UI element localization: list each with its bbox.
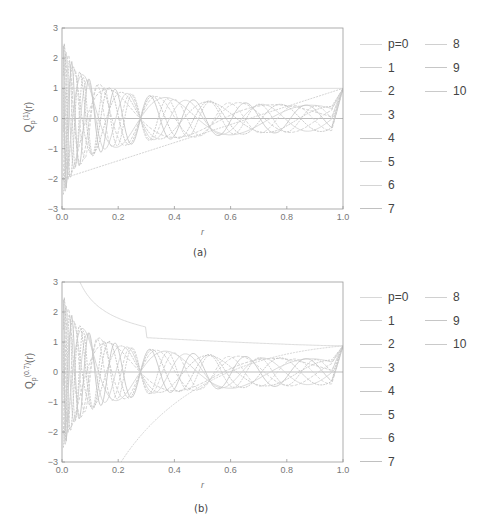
series-group (63, 262, 343, 492)
legend-line-swatch (360, 114, 382, 115)
legend-line-swatch (360, 67, 382, 68)
legend-label: 6 (388, 430, 395, 446)
legend-label: 9 (453, 60, 460, 76)
series-line-p7 (63, 44, 343, 177)
legend-label: 5 (388, 407, 395, 423)
legend-label: 4 (388, 130, 395, 146)
legend-item-p6: 6 (360, 430, 395, 446)
x-tick-label: 0.0 (56, 465, 69, 475)
legend-item-p9: 9 (425, 313, 460, 329)
legend-label: 5 (388, 154, 395, 170)
legend-item-p9: 9 (425, 60, 460, 76)
legend-line-swatch (425, 91, 447, 92)
legend-item-p7: 7 (360, 201, 395, 217)
legend-label: p=0 (388, 36, 408, 52)
series-line-p6 (63, 306, 343, 422)
legend-label: 2 (388, 83, 395, 99)
x-tick-label: 0.8 (281, 465, 294, 475)
y-tick-label: 3 (53, 23, 58, 33)
x-tick-label: 0.2 (112, 212, 125, 222)
legend-line-swatch (360, 438, 382, 439)
x-tick-label: 1.0 (337, 212, 350, 222)
series-line-p1 (63, 346, 343, 492)
legend-label: 1 (388, 313, 395, 329)
legend-line-swatch (360, 185, 382, 186)
caption-a: (a) (193, 247, 207, 258)
legend-item-p8: 8 (425, 36, 460, 52)
legend-item-p7: 7 (360, 454, 395, 470)
series-line-p4 (63, 67, 343, 195)
y-tick-label: −1 (48, 397, 58, 407)
legend-label: 9 (453, 313, 460, 329)
legend-line-swatch (360, 44, 382, 45)
y-tick-label: −2 (48, 174, 58, 184)
legend-item-p0: p=0 (360, 36, 408, 52)
legend-line-swatch (425, 320, 447, 321)
series-line-p2 (63, 88, 343, 175)
legend-item-p1: 1 (360, 313, 395, 329)
legend-item-p2: 2 (360, 83, 395, 99)
legend-item-p6: 6 (360, 177, 395, 193)
y-tick-label: 0 (53, 114, 58, 124)
legend-label: 4 (388, 383, 395, 399)
legend-item-p1: 1 (360, 60, 395, 76)
x-tick-label: 0.4 (168, 465, 181, 475)
legend-line-swatch (360, 391, 382, 392)
legend-item-p3: 3 (360, 360, 395, 376)
legend-line-swatch (360, 297, 382, 298)
caption-b: (b) (194, 503, 208, 514)
legend-line-swatch (425, 44, 447, 45)
legend-item-p0: p=0 (360, 289, 408, 305)
legend-line-swatch (360, 367, 382, 368)
legend-line-swatch (360, 414, 382, 415)
legend-label: p=0 (388, 289, 408, 305)
legend-item-p8: 8 (425, 289, 460, 305)
legend-item-p5: 5 (360, 154, 395, 170)
legend-label: 7 (388, 201, 395, 217)
legend-line-swatch (360, 91, 382, 92)
legend-item-p3: 3 (360, 107, 395, 123)
y-tick-label: 2 (53, 53, 58, 63)
legend-line-swatch (360, 208, 382, 209)
legend-item-p10: 10 (425, 336, 466, 352)
legend-label: 6 (388, 177, 395, 193)
x-axis-label: r (201, 227, 205, 237)
legend-b: p=012345678910 (360, 262, 486, 462)
series-line-p9 (63, 46, 343, 188)
legend-line-swatch (360, 344, 382, 345)
x-tick-label: 1.0 (337, 465, 350, 475)
x-tick-label: 0.6 (224, 212, 237, 222)
series-line-p2 (63, 343, 343, 429)
y-tick-label: −2 (48, 427, 58, 437)
x-tick-label: 0.8 (281, 212, 294, 222)
legend-label: 3 (388, 360, 395, 376)
y-tick-label: 1 (53, 337, 58, 347)
series-line-p6 (63, 52, 343, 168)
y-tick-label: 2 (53, 307, 58, 317)
series-group (62, 44, 343, 195)
legend-item-p4: 4 (360, 130, 395, 146)
legend-line-swatch (360, 461, 382, 462)
legend-label: 8 (453, 36, 460, 52)
legend-line-swatch (360, 138, 382, 139)
legend-label: 10 (453, 83, 466, 99)
x-axis-label: r (201, 480, 205, 490)
y-axis-label-a: Qp(1)(r) (22, 92, 36, 142)
chart-panel-a: 3210−1−2−30.00.20.40.60.81.0r Qp(1)(r) (… (0, 0, 486, 262)
legend-label: 1 (388, 60, 395, 76)
series-line-p10 (63, 315, 343, 441)
legend-line-swatch (360, 320, 382, 321)
legend-line-swatch (425, 297, 447, 298)
y-tick-label: −1 (48, 144, 58, 154)
legend-a: p=012345678910 (360, 0, 486, 200)
legend-item-p4: 4 (360, 383, 395, 399)
legend-label: 10 (453, 336, 466, 352)
y-tick-label: 3 (53, 277, 58, 287)
x-tick-label: 0.6 (224, 465, 237, 475)
legend-line-swatch (425, 67, 447, 68)
x-tick-label: 0.4 (168, 212, 181, 222)
y-tick-label: 0 (53, 367, 58, 377)
legend-label: 2 (388, 336, 395, 352)
x-tick-label: 0.2 (112, 465, 125, 475)
legend-label: 7 (388, 454, 395, 470)
